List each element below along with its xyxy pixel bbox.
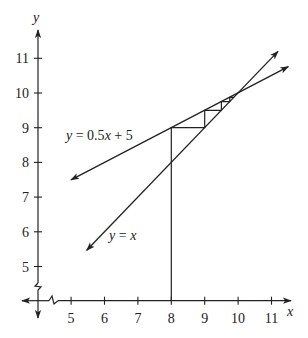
y-tick-label: 8 <box>22 155 29 170</box>
x-tick-label: 11 <box>265 311 278 326</box>
y-tick-label: 7 <box>22 190 29 205</box>
x-tick-labels: 5 6 7 8 9 10 11 <box>68 311 279 326</box>
x-tick-label: 8 <box>168 311 175 326</box>
cobweb-diagram: 11 10 9 8 7 6 5 5 6 7 8 9 10 11 y x y = … <box>0 0 308 338</box>
y-axis <box>35 30 41 318</box>
line-y-eq-x <box>87 51 278 250</box>
x-tick-label: 6 <box>101 311 108 326</box>
x-tick-label: 10 <box>231 311 245 326</box>
equation-label-line-1: y = 0.5x + 5 <box>64 128 133 143</box>
x-tick-label: 5 <box>68 311 75 326</box>
y-tick-label: 6 <box>22 225 29 240</box>
cobweb-path <box>171 97 234 300</box>
equation-label-line-2: y = x <box>107 228 137 243</box>
y-axis-break-icon <box>35 283 41 290</box>
y-tick-label: 5 <box>22 260 29 275</box>
x-tick-label: 9 <box>201 311 208 326</box>
y-tick-labels: 11 10 9 8 7 6 5 <box>15 51 29 274</box>
y-tick-label: 9 <box>22 121 29 136</box>
x-axis <box>22 296 291 304</box>
x-axis-label: x <box>286 304 294 319</box>
y-tick-label: 11 <box>16 51 29 66</box>
y-tick-label: 10 <box>15 86 29 101</box>
x-tick-label: 7 <box>134 311 141 326</box>
y-axis-label: y <box>31 10 40 25</box>
line-y-eq-half-x-plus-5 <box>71 67 288 180</box>
x-axis-break-icon <box>49 296 58 304</box>
